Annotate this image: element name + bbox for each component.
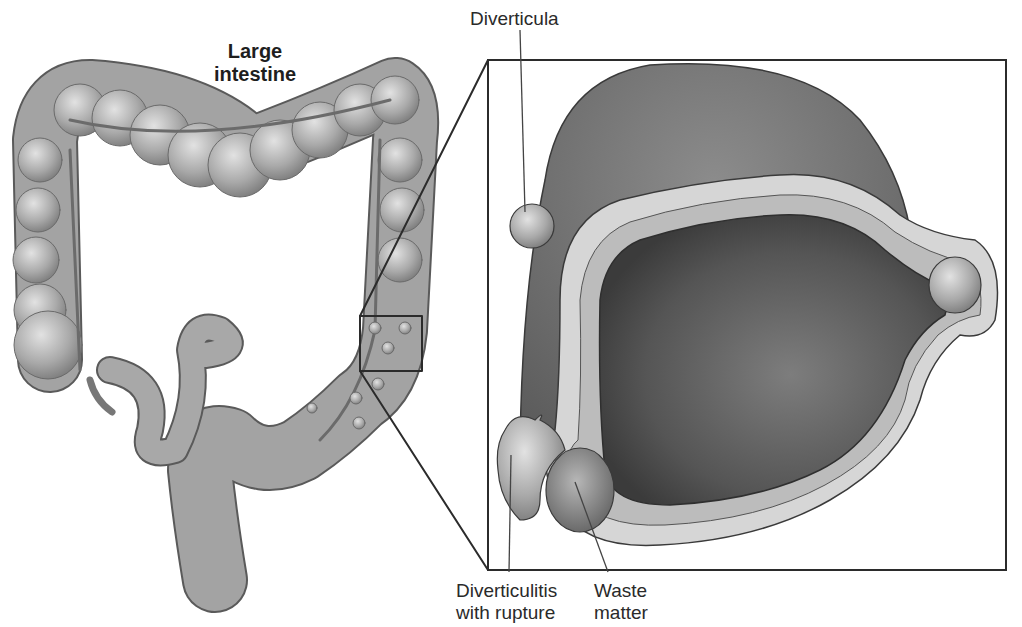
waste-matter bbox=[546, 448, 614, 532]
title-line-2: intestine bbox=[205, 63, 305, 86]
title-line-1: Large bbox=[205, 40, 305, 63]
label-diverticula: Diverticula bbox=[470, 8, 559, 30]
label-waste-matter: Waste matter bbox=[594, 580, 648, 624]
label-waste-line-1: Waste bbox=[594, 580, 648, 602]
diagram-canvas bbox=[0, 0, 1022, 627]
large-intestine-illustration bbox=[13, 60, 488, 580]
cross-section-illustration bbox=[488, 60, 1006, 570]
label-diverticulitis-line-2: with rupture bbox=[456, 602, 557, 624]
label-waste-line-2: matter bbox=[594, 602, 648, 624]
large-intestine-title: Large intestine bbox=[205, 40, 305, 86]
label-diverticulitis: Diverticulitis with rupture bbox=[456, 580, 557, 624]
diverticulum-pouch bbox=[929, 257, 981, 313]
label-diverticulitis-line-1: Diverticulitis bbox=[456, 580, 557, 602]
diverticulum-pouch bbox=[510, 204, 554, 248]
